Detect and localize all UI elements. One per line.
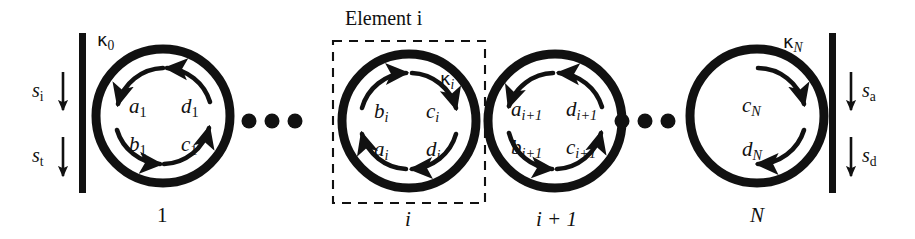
left-bus-waveguide: [79, 33, 86, 193]
ellipsis-left: [242, 114, 303, 129]
port-label-s-add: sa: [862, 80, 876, 104]
amplitude-label-di1: di+1: [566, 99, 597, 123]
right-bus-waveguide: [829, 33, 836, 193]
amplitude-label-ci: ci: [426, 101, 439, 125]
port-label-s-drop: sd: [862, 145, 877, 169]
ring-index-label-i: i: [405, 209, 411, 230]
ring-i: [342, 54, 476, 188]
ring-1: [96, 49, 230, 183]
coupling-label-kappa-0: κ0: [97, 29, 114, 53]
ring-i-plus-1: [488, 54, 622, 188]
port-label-s-incident: si: [32, 80, 44, 104]
amplitude-label-b1: b1: [129, 134, 147, 158]
amplitude-label-a1: a1: [129, 96, 147, 120]
amplitude-label-bi: bi: [374, 101, 388, 125]
ring-resonator-diagram: Element i si st sa sd κ0 κi κN a1 d1 b1 …: [0, 0, 915, 239]
amplitude-label-cN: cN: [742, 95, 761, 119]
ring-index-label-i-plus-1: i + 1: [536, 209, 577, 230]
ring-index-label-N: N: [750, 205, 764, 226]
amplitude-label-di: di: [426, 139, 440, 163]
amplitude-label-ai1: ai+1: [511, 99, 542, 123]
element-i-dashed-box: [333, 41, 485, 203]
ring-index-label-1: 1: [157, 205, 168, 226]
ellipsis-right: [615, 114, 676, 129]
amplitude-label-ci1: ci+1: [566, 137, 596, 161]
amplitude-label-bi1: bi+1: [511, 137, 542, 161]
amplitude-label-ai: ai: [374, 139, 388, 163]
port-label-s-transmitted: st: [32, 145, 44, 169]
amplitude-label-dN: dN: [742, 139, 762, 163]
coupling-label-kappa-i: κi: [440, 68, 454, 92]
ring-N-arc-d: [758, 130, 804, 164]
amplitude-label-c1: c1: [181, 134, 197, 158]
amplitude-label-d1: d1: [181, 96, 199, 120]
coupling-label-kappa-N: κN: [783, 31, 803, 55]
ring-N-arc-c: [758, 68, 804, 104]
element-i-label: Element i: [345, 8, 422, 28]
